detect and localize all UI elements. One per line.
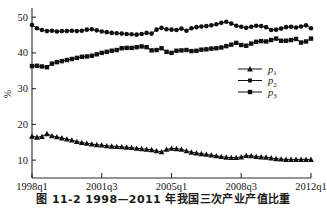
data-point <box>45 29 50 34</box>
legend: p1p2p3 <box>238 64 277 101</box>
data-point <box>244 26 249 31</box>
data-point <box>244 44 248 48</box>
data-point <box>89 27 94 32</box>
data-point <box>294 25 299 30</box>
y-tick-label: 10 <box>18 155 29 166</box>
legend-marker-circle-icon <box>248 78 253 83</box>
data-point <box>184 48 188 52</box>
data-point <box>234 41 238 45</box>
data-point <box>124 46 128 50</box>
data-point <box>224 44 228 48</box>
data-point <box>129 46 133 50</box>
data-point <box>40 64 44 68</box>
data-point <box>194 49 198 53</box>
data-point <box>144 31 149 36</box>
data-point <box>44 131 50 136</box>
data-point <box>134 32 139 37</box>
data-point <box>219 45 223 49</box>
series-p1 <box>29 131 314 162</box>
data-point <box>279 39 283 43</box>
data-point <box>189 49 193 53</box>
data-point <box>189 26 194 31</box>
data-point <box>70 57 74 61</box>
data-point <box>164 27 169 32</box>
data-point <box>239 43 243 47</box>
data-point <box>90 54 94 58</box>
data-point <box>35 64 39 68</box>
data-point <box>75 29 80 34</box>
data-point <box>269 38 273 42</box>
data-point <box>55 60 59 64</box>
data-point <box>259 39 263 43</box>
data-point <box>95 52 99 56</box>
y-tick-label: 50 <box>18 12 29 23</box>
data-point <box>279 26 284 31</box>
data-point <box>75 56 79 60</box>
data-point <box>309 26 314 31</box>
data-point <box>179 48 183 52</box>
data-point <box>30 23 35 28</box>
figure-caption: 图 11-2 1998—2011 年我国三次产业产值比重 <box>0 190 327 206</box>
data-point <box>199 47 203 51</box>
data-point <box>249 41 253 45</box>
data-point <box>254 23 259 28</box>
data-point <box>80 28 85 33</box>
data-point <box>119 31 124 36</box>
data-point <box>229 42 233 46</box>
data-point <box>309 36 313 40</box>
data-point <box>65 58 69 62</box>
data-point <box>209 23 214 28</box>
data-point <box>274 36 278 40</box>
y-tick-label: 20 <box>18 119 29 130</box>
data-point <box>249 25 254 30</box>
data-point <box>174 28 179 33</box>
data-point <box>104 30 109 35</box>
data-point <box>234 23 239 28</box>
data-point <box>50 61 54 65</box>
data-point <box>159 26 164 31</box>
data-point <box>284 39 288 43</box>
data-point <box>29 133 35 138</box>
data-point <box>50 28 55 33</box>
data-point <box>60 59 64 63</box>
data-point <box>144 45 148 49</box>
data-point <box>259 24 264 29</box>
legend-subscript: 2 <box>273 81 277 89</box>
data-point <box>139 44 143 48</box>
data-point <box>304 39 308 43</box>
data-point <box>209 46 213 50</box>
data-point <box>304 23 309 28</box>
data-point <box>65 29 70 34</box>
data-point <box>264 39 268 43</box>
data-point <box>55 29 60 34</box>
data-point <box>94 28 99 33</box>
legend-item-p3[interactable]: p3 <box>238 87 277 101</box>
y-axis-title: % <box>2 90 13 98</box>
data-point <box>274 27 279 32</box>
data-point <box>289 38 293 42</box>
data-point <box>159 46 163 50</box>
y-tick-label: 40 <box>18 47 29 58</box>
data-point <box>85 27 90 32</box>
data-point <box>109 31 114 36</box>
data-point <box>219 21 224 26</box>
data-point <box>169 27 174 32</box>
data-point <box>124 32 129 37</box>
data-point <box>39 134 45 139</box>
data-point <box>35 26 40 31</box>
data-point <box>99 29 104 34</box>
data-point <box>204 24 209 29</box>
data-point <box>224 19 229 24</box>
data-point <box>194 25 199 30</box>
data-point <box>299 24 304 29</box>
data-point <box>114 48 118 52</box>
data-point <box>214 46 218 50</box>
data-point <box>164 50 168 54</box>
data-point <box>60 29 65 34</box>
data-point <box>254 40 258 44</box>
data-point <box>49 133 55 138</box>
data-point <box>199 24 204 29</box>
data-point <box>80 55 84 59</box>
data-point <box>40 28 45 33</box>
data-point <box>129 32 134 37</box>
